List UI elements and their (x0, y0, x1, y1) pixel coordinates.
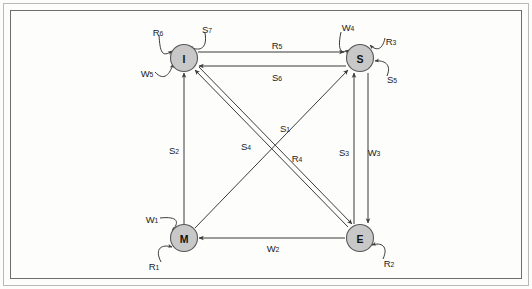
loop-W4 (339, 32, 349, 52)
node-M-label: M (180, 233, 189, 245)
label-S7: S7 (202, 24, 212, 35)
label-R6: R6 (153, 27, 164, 38)
label-W5: W5 (141, 68, 154, 79)
label-R5: R5 (272, 40, 283, 51)
label-S5: S5 (387, 74, 397, 85)
label-R1: R1 (149, 261, 160, 272)
label-W1: W1 (146, 214, 159, 225)
label-S3: S3 (339, 147, 349, 158)
node-I-label: I (183, 53, 186, 65)
label-S4: S4 (241, 141, 251, 152)
label-W4: W4 (342, 22, 355, 33)
label-R4: R4 (292, 153, 303, 164)
label-W3: W3 (368, 147, 381, 158)
state-transition-diagram: I S M E R5S6S2S3W3W2S1S4R4R6S7W5W4R3S5W1… (0, 0, 532, 289)
diagram-canvas: I S M E R5S6S2S3W3W2S1S4R4R6S7W5W4R3S5W1… (0, 0, 532, 289)
label-S2: S2 (169, 145, 179, 156)
label-W2: W2 (267, 243, 280, 254)
loop-R1 (158, 246, 172, 262)
label-R2: R2 (384, 258, 395, 269)
node-S-label: S (356, 53, 363, 65)
node-S[interactable]: S (347, 45, 374, 72)
node-E-label: E (356, 233, 363, 245)
node-I[interactable]: I (171, 45, 198, 72)
loop-W5 (155, 64, 173, 77)
node-M[interactable]: M (171, 225, 198, 252)
loop-R6 (159, 35, 172, 54)
label-R3: R3 (386, 36, 397, 47)
loop-R3 (370, 38, 385, 49)
label-S6: S6 (272, 72, 282, 83)
node-E[interactable]: E (347, 225, 374, 252)
label-S1: S1 (280, 123, 290, 134)
